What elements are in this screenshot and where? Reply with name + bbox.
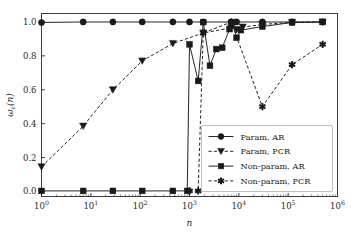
x-tick-label: 106 — [330, 199, 345, 210]
marker-square — [80, 188, 86, 194]
marker-square — [207, 63, 213, 69]
svg-text:ωε(n): ωε(n) — [5, 93, 16, 117]
marker-square — [259, 24, 265, 30]
marker-square — [213, 46, 219, 52]
x-tick-label: 105 — [281, 199, 296, 210]
marker-square — [187, 41, 193, 47]
y-axis-title: ωε(n) — [5, 93, 16, 117]
marker-circle — [38, 19, 44, 25]
marker-circle — [139, 19, 145, 25]
y-tick-label: 0.2 — [23, 153, 37, 163]
y-tick-label: 0.4 — [23, 119, 37, 129]
marker-square — [219, 45, 225, 51]
marker-square — [227, 26, 233, 32]
marker-square — [200, 19, 206, 25]
y-tick-label: 1.0 — [23, 17, 37, 27]
marker-square — [289, 20, 295, 26]
marker-triangle-down — [109, 87, 116, 93]
marker-square — [238, 27, 244, 33]
y-tick-label: 0.6 — [23, 85, 37, 95]
series-param-ar — [38, 19, 325, 26]
legend-label: Non-param, PCR — [241, 176, 312, 186]
marker-square — [110, 188, 116, 194]
legend-label: Param, PCR — [241, 146, 292, 156]
marker-circle — [80, 19, 86, 25]
x-tick-label: 100 — [34, 199, 49, 210]
y-tick-label: 0.8 — [23, 51, 37, 61]
y-tick-label: 0.0 — [23, 186, 37, 196]
legend-label: Param, AR — [241, 132, 286, 142]
marker-circle — [110, 19, 116, 25]
marker-square — [39, 188, 45, 194]
marker-circle — [170, 19, 176, 25]
x-tick-label: 104 — [231, 199, 246, 210]
x-tick-label: 101 — [83, 199, 98, 210]
chart-svg: 1001011021031041051060.00.20.40.60.81.0n… — [0, 0, 351, 244]
x-axis-ticks: 100101102103104105106 — [34, 193, 345, 211]
marker-star — [320, 41, 326, 48]
marker-circle — [218, 134, 224, 140]
marker-circle — [186, 19, 192, 25]
x-tick-label: 102 — [133, 199, 148, 210]
marker-square — [320, 19, 326, 25]
marker-triangle-down — [38, 164, 45, 170]
x-tick-label: 103 — [182, 199, 197, 210]
x-axis-title: n — [187, 218, 193, 228]
legend-label: Non-param, AR — [241, 161, 306, 171]
marker-square — [139, 188, 145, 194]
marker-star — [259, 103, 265, 110]
figure-canvas: 1001011021031041051060.00.20.40.60.81.0n… — [0, 0, 351, 244]
marker-square — [170, 188, 176, 194]
marker-square — [195, 78, 201, 84]
marker-square — [218, 163, 224, 169]
marker-triangle-down — [169, 40, 176, 46]
legend: Param, ARParam, PCRNon-param, ARNon-para… — [202, 126, 333, 192]
